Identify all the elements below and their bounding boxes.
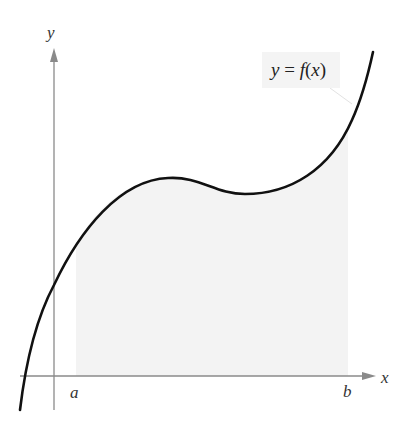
function-label-lhs: y bbox=[271, 59, 279, 80]
area-under-curve-figure: y x a b y = f(x) bbox=[0, 0, 416, 436]
function-label-equals: = bbox=[284, 59, 295, 80]
label-leader-line bbox=[330, 88, 352, 104]
y-axis-arrow-icon bbox=[50, 48, 58, 62]
function-label-close-paren: ) bbox=[320, 59, 326, 80]
x-axis-arrow-icon bbox=[362, 372, 376, 380]
plot-canvas bbox=[0, 0, 416, 436]
function-label: y = f(x) bbox=[271, 60, 326, 79]
function-label-arg: x bbox=[311, 59, 319, 80]
upper-bound-label: b bbox=[343, 383, 352, 400]
lower-bound-label: a bbox=[70, 384, 79, 401]
shaded-region bbox=[76, 130, 348, 376]
x-axis-label: x bbox=[381, 369, 389, 386]
y-axis-label: y bbox=[47, 24, 55, 41]
